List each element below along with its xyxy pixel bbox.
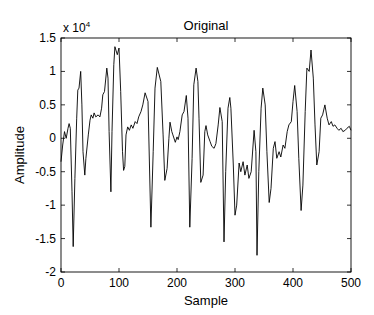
y-axis-multiplier: x 104 (63, 20, 91, 35)
plot-area (61, 47, 351, 256)
x-tick-label: 400 (283, 276, 303, 290)
y-tick-label: -1 (45, 198, 56, 212)
line-chart: 0100200300400500-2-1.5-1-0.500.511.5 Ori… (0, 0, 374, 315)
x-axis-label: Sample (184, 293, 228, 308)
series-line (61, 47, 351, 256)
x-tick-label: 500 (341, 276, 361, 290)
y-tick-label: -2 (45, 265, 56, 279)
y-axis-label: Amplitude (12, 126, 27, 184)
y-tick-label: 1 (49, 64, 56, 78)
chart-title: Original (184, 18, 229, 33)
y-tick-label: -0.5 (35, 165, 56, 179)
x-tick-label: 100 (109, 276, 129, 290)
y-tick-label: 0.5 (39, 98, 56, 112)
chart-figure: 0100200300400500-2-1.5-1-0.500.511.5 Ori… (0, 0, 374, 315)
x-tick-label: 200 (167, 276, 187, 290)
x-tick-label: 300 (225, 276, 245, 290)
x-tick-label: 0 (58, 276, 65, 290)
y-tick-label: 1.5 (39, 31, 56, 45)
y-tick-label: -1.5 (35, 232, 56, 246)
y-tick-label: 0 (49, 131, 56, 145)
axes-frame (61, 38, 351, 272)
